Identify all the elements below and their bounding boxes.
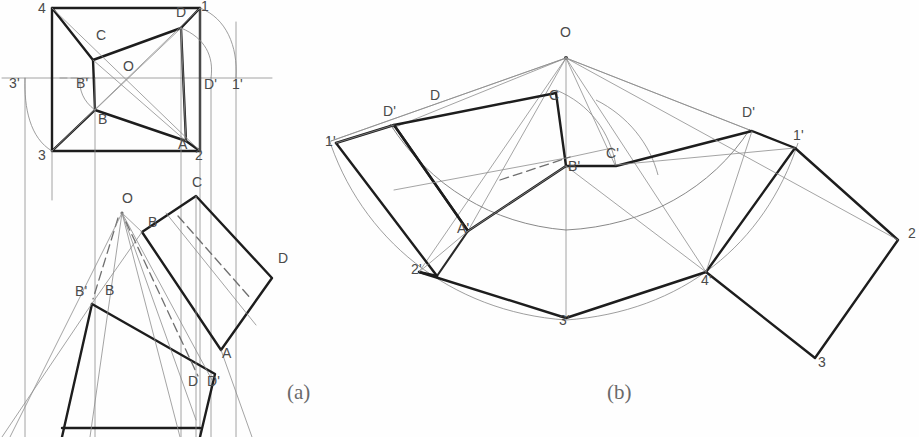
- ray-Bprime-down: [2, 302, 93, 437]
- interior-edge-D-A: [181, 28, 186, 141]
- label-3prime: 3': [9, 75, 20, 91]
- label-C-top: C: [96, 27, 106, 43]
- face-right-square-1234: [706, 148, 898, 358]
- label-2: 2: [195, 147, 203, 163]
- label-1: 1: [201, 0, 209, 14]
- label-3: 3: [38, 147, 46, 163]
- technical-drawing-canvas: .heavy{fill:none;stroke:#1d1d1d;stroke-w…: [0, 0, 919, 437]
- label-D-top: D: [176, 4, 186, 20]
- label-D-front: D: [278, 250, 288, 266]
- label-3-dev: 3: [818, 354, 826, 370]
- caption-b: (b): [607, 380, 632, 404]
- label-Cprime-dev: C': [606, 145, 619, 161]
- panel-b-development: O D C D' D' 1' 1' B' C' A' 2 2' 4' 3' 3: [325, 24, 916, 370]
- label-2prime-dev: 2': [411, 261, 422, 277]
- chord-Dprime-4prime: [706, 131, 752, 272]
- label-O-dev: O: [560, 24, 571, 40]
- inner-diagonal-D-B: [95, 28, 181, 110]
- panel-a-front-view: O C B D B' B A D D': [2, 174, 288, 437]
- edge-4-to-C: [52, 8, 93, 60]
- ray-O-to-Dprime: [122, 213, 212, 380]
- label-Bprime-dev: B': [568, 158, 580, 174]
- band-top-profile-right: [566, 131, 795, 166]
- chord-Bprime-4prime: [566, 166, 706, 272]
- label-4: 4: [38, 0, 46, 16]
- label-Dprime-front: D': [207, 373, 220, 389]
- rotation-arc-D-to-Dprime: [181, 28, 212, 78]
- rotation-arc-3-to-3prime: [25, 78, 52, 151]
- label-1prime: 1': [232, 76, 243, 92]
- label-B-front: B: [148, 214, 158, 230]
- generator-O-to-Dprime-right: [566, 58, 752, 131]
- label-O-front: O: [122, 190, 133, 206]
- label-3prime-dev: 3': [559, 312, 570, 328]
- ray-O-far-left: [10, 213, 122, 437]
- label-D-front2: D: [188, 373, 198, 389]
- label-1prime-dev-right: 1': [793, 127, 804, 143]
- label-B-top: B: [98, 111, 108, 127]
- label-Dprime-dev-left: D': [383, 103, 396, 119]
- chord-Cprime-1prime-right: [615, 148, 795, 165]
- label-4prime-dev: 4': [701, 272, 712, 288]
- front-pyramid-right-edges: [92, 304, 215, 437]
- label-C-dev: C: [549, 87, 559, 103]
- label-B-front2: B: [105, 282, 115, 298]
- label-Aprime-dev: A': [457, 220, 469, 236]
- label-Bprime-top: B': [76, 75, 88, 91]
- generator-O-to-Dprime-left: [393, 58, 566, 128]
- generator-O-to-Aprime: [468, 58, 566, 231]
- label-1prime-dev-left: 1': [325, 133, 336, 149]
- label-2-dev: 2: [908, 225, 916, 241]
- label-A-top: A: [178, 136, 188, 152]
- label-Bprime-front: B': [75, 283, 87, 299]
- projector-A-down: [221, 350, 252, 437]
- label-A-front: A: [222, 345, 232, 361]
- label-C-front: C: [192, 174, 202, 190]
- long-chord-left: [331, 58, 566, 141]
- inner-development-arc: [390, 124, 750, 230]
- caption-a: (a): [287, 380, 310, 404]
- label-O-top: O: [123, 58, 134, 74]
- true-shape-square-CBAD: [142, 196, 272, 350]
- label-Dprime-dev-right: D': [742, 104, 755, 120]
- drawing-sheet: .heavy{fill:none;stroke:#1d1d1d;stroke-w…: [0, 0, 919, 437]
- label-D-dev: D: [430, 87, 440, 103]
- outer-development-arc: [328, 136, 798, 320]
- inner-diagonal-C-A: [93, 60, 186, 141]
- rotation-arc-1-to-1prime: [200, 8, 236, 78]
- label-Dprime-top: D': [204, 76, 217, 92]
- true-shape-dashed-diagonal: [178, 216, 252, 300]
- chord-Dprime-1prime: [336, 125, 394, 143]
